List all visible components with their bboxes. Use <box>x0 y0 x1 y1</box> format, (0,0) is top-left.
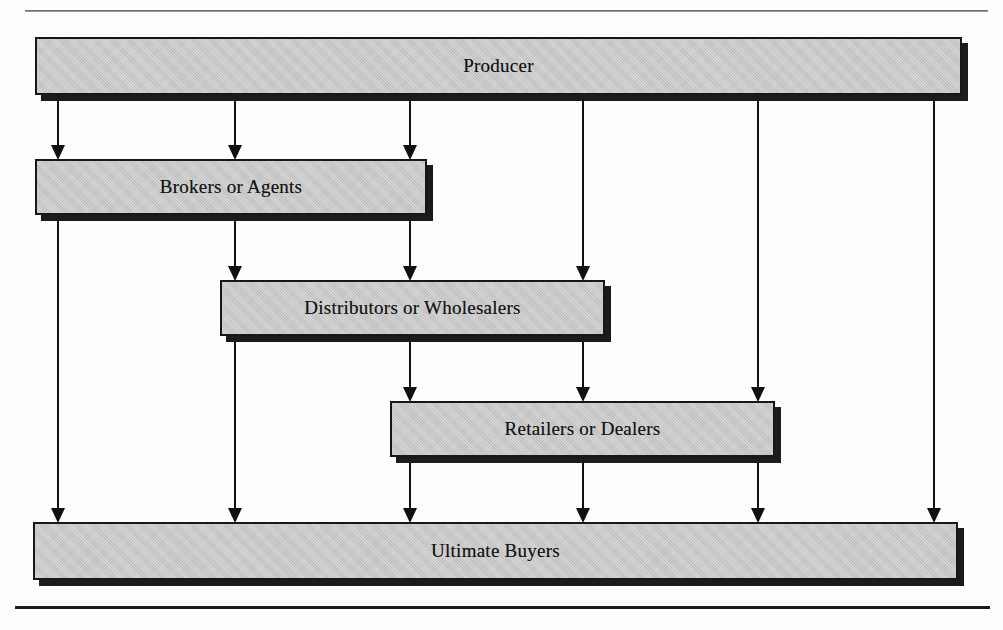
arrowhead-icon-c5 <box>751 387 765 402</box>
node-brokers: Brokers or Agents <box>35 159 427 215</box>
arrowhead-icon-c15 <box>751 508 765 523</box>
connector-c8 <box>234 215 236 267</box>
node-distributors: Distributors or Wholesalers <box>220 280 605 336</box>
connector-c9 <box>409 215 411 267</box>
connector-c2 <box>234 95 236 146</box>
connector-c3 <box>409 95 411 146</box>
distribution-channel-diagram: ProducerBrokers or AgentsDistributors or… <box>0 0 1003 630</box>
arrowhead-icon-c10 <box>228 508 242 523</box>
connector-c1 <box>57 95 59 146</box>
node-buyers: Ultimate Buyers <box>33 522 958 580</box>
arrowhead-icon-c13 <box>403 508 417 523</box>
node-label-distributors: Distributors or Wholesalers <box>304 297 520 319</box>
top-horizontal-rule <box>25 10 988 12</box>
arrowhead-icon-c12 <box>576 387 590 402</box>
node-label-retailers: Retailers or Dealers <box>505 418 661 440</box>
connector-c5 <box>757 95 759 388</box>
arrowhead-icon-c6 <box>927 508 941 523</box>
arrowhead-icon-c2 <box>228 145 242 160</box>
connector-c11 <box>409 336 411 388</box>
arrowhead-icon-c1 <box>51 145 65 160</box>
bottom-horizontal-rule <box>15 606 990 609</box>
connector-c14 <box>582 457 584 509</box>
arrowhead-icon-c4 <box>576 266 590 281</box>
node-label-brokers: Brokers or Agents <box>160 176 303 198</box>
connector-c15 <box>757 457 759 509</box>
arrowhead-icon-c11 <box>403 387 417 402</box>
connector-c12 <box>582 336 584 388</box>
node-label-buyers: Ultimate Buyers <box>431 540 560 562</box>
connector-c13 <box>409 457 411 509</box>
cropped-caption-sliver <box>0 0 1003 8</box>
node-retailers: Retailers or Dealers <box>390 401 775 457</box>
node-label-producer: Producer <box>463 55 534 77</box>
connector-c7 <box>57 215 59 509</box>
arrowhead-icon-c14 <box>576 508 590 523</box>
connector-c4 <box>582 95 584 267</box>
arrowhead-icon-c3 <box>403 145 417 160</box>
arrowhead-icon-c9 <box>403 266 417 281</box>
arrowhead-icon-c7 <box>51 508 65 523</box>
connector-c6 <box>933 95 935 509</box>
node-producer: Producer <box>35 37 962 95</box>
connector-c10 <box>234 336 236 509</box>
arrowhead-icon-c8 <box>228 266 242 281</box>
